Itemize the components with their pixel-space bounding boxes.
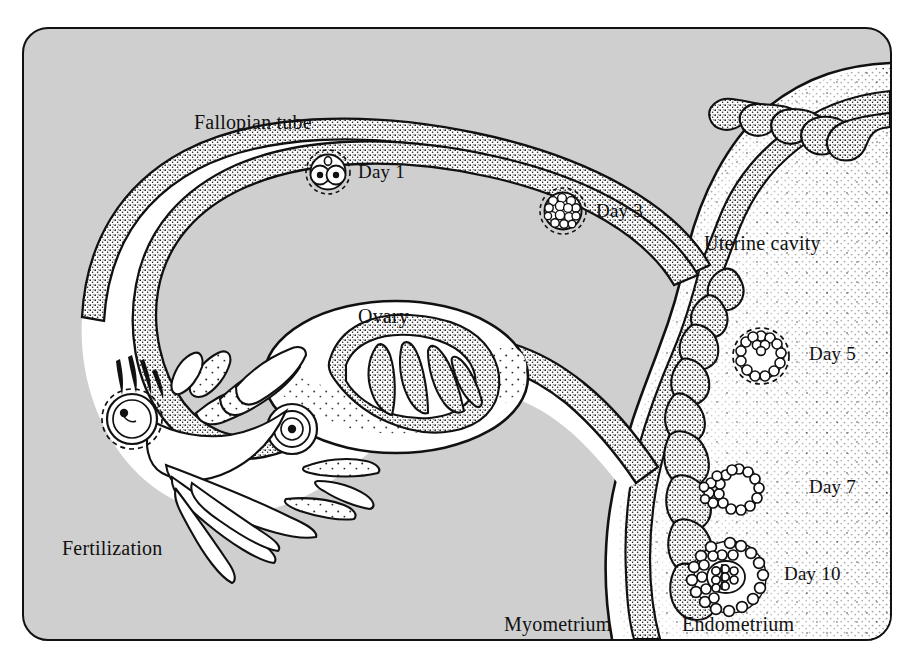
figure-canvas: Fallopian tube Ovary Fertilization Uteri… bbox=[0, 0, 902, 650]
label-myometrium: Myometrium bbox=[504, 614, 612, 634]
label-day-10: Day 10 bbox=[784, 564, 841, 583]
label-day-7: Day 7 bbox=[809, 477, 856, 496]
label-ovary: Ovary bbox=[358, 306, 409, 326]
stage-day1-embryo bbox=[306, 150, 350, 194]
stage-day5-embryo bbox=[733, 328, 789, 384]
diagram-frame: Fallopian tube Ovary Fertilization Uteri… bbox=[22, 27, 892, 641]
label-day-3: Day 3 bbox=[596, 201, 643, 220]
label-day-1: Day 1 bbox=[358, 162, 405, 181]
label-uterine-cavity: Uterine cavity bbox=[704, 233, 821, 253]
label-fallopian-tube: Fallopian tube bbox=[194, 112, 312, 132]
label-day-5: Day 5 bbox=[809, 344, 856, 363]
label-fertilization: Fertilization bbox=[62, 538, 162, 558]
label-endometrium: Endometrium bbox=[682, 614, 794, 634]
